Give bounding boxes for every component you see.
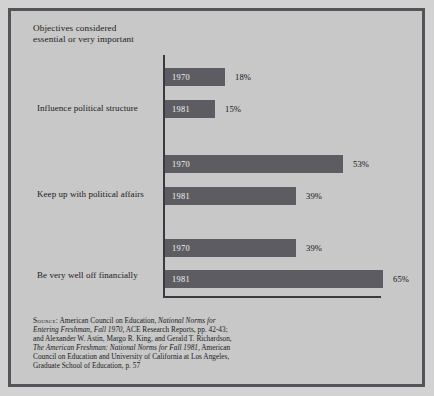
source-line-1-text: American Council on Education,	[58, 316, 158, 325]
bar-1981-influence-political-structure: 1981	[165, 100, 215, 118]
bar-year-label: 1981	[172, 105, 190, 114]
source-line-1-italic: National Norms for	[158, 316, 216, 325]
bar-year-label: 1970	[172, 244, 190, 253]
bar-1981-be-very-well-off-financially: 1981	[165, 270, 383, 288]
category-label-keep-up-with-political-affairs: Keep up with political affairs	[37, 189, 161, 199]
bar-year-label: 1970	[172, 73, 190, 82]
bar-value-label: 65%	[393, 274, 409, 284]
source-line-2-italic: Entering Freshman, Fall 1970,	[33, 325, 124, 334]
bar-value-label: 39%	[306, 191, 322, 201]
source-line-2-text: ACE Research Reports, pp. 42-43;	[124, 325, 227, 334]
chart-inner-background: Objectives considered essential or very …	[11, 11, 422, 384]
bar-1981-keep-up-with-political-affairs: 1981	[165, 187, 296, 205]
source-line-5: Council on Education and University of C…	[33, 352, 323, 361]
source-line-4-italic: The American Freshman: National Norms fo…	[33, 343, 200, 352]
source-line-2: Entering Freshman, Fall 1970, ACE Resear…	[33, 325, 323, 334]
figure-container: Objectives considered essential or very …	[0, 0, 434, 396]
source-note: Source: American Council on Education, N…	[33, 316, 323, 371]
bar-year-label: 1970	[172, 160, 190, 169]
chart-frame: Objectives considered essential or very …	[8, 8, 425, 387]
category-label-be-very-well-off-financially: Be very well off financially	[37, 270, 161, 280]
bar-year-label: 1981	[172, 192, 190, 201]
y-axis-line	[163, 55, 165, 296]
bar-value-label: 53%	[353, 159, 369, 169]
source-line-4: The American Freshman: National Norms fo…	[33, 343, 323, 352]
source-line-3: and Alexander W. Astin, Margo R. King, a…	[33, 334, 323, 343]
source-line-6: Graduate School of Education, p. 57	[33, 361, 323, 370]
bar-value-label: 39%	[306, 243, 322, 253]
bar-1970-be-very-well-off-financially: 1970	[165, 239, 296, 257]
category-label-influence-political-structure: Influence political structure	[37, 103, 161, 113]
bar-year-label: 1981	[172, 275, 190, 284]
source-line-4-text: American	[200, 343, 230, 352]
bar-1970-influence-political-structure: 1970	[165, 68, 225, 86]
source-label: Source:	[33, 316, 58, 325]
bar-value-label: 18%	[235, 72, 251, 82]
source-line-1: Source: American Council on Education, N…	[33, 316, 323, 325]
x-axis-baseline	[163, 296, 381, 298]
bar-1970-keep-up-with-political-affairs: 1970	[165, 155, 343, 173]
bar-value-label: 15%	[225, 104, 241, 114]
